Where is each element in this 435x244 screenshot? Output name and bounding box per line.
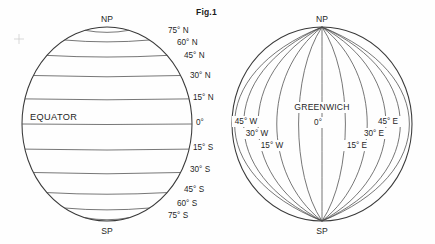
longitude-label--45: 45° W [235,117,258,126]
meridian-line-30 [322,27,367,221]
latitude-label-60: 60° N [177,38,198,47]
latitude-label-30: 30° N [190,71,211,80]
figure-canvas: Fig.1 NPSPEQUATOR75° N60° N45° N30° N15°… [0,0,435,244]
south-pole-label-left: SP [101,226,113,236]
globes-diagram: NPSPEQUATOR75° N60° N45° N30° N15° N0°15… [0,0,435,244]
latitude-label--15: 15° S [193,143,214,152]
latitude-label-15: 15° N [193,93,214,102]
north-pole-label-left: NP [101,14,113,24]
longitude-label-30: 30° E [364,129,385,138]
parallel-line-45 [47,55,167,57]
greenwich-label: GREENWICH [294,102,349,112]
longitude-label-0: 0° [314,118,322,127]
parallel-line--15 [25,149,189,150]
meridian-line-15 [322,27,345,221]
latitude-label--45: 45° S [184,185,205,194]
north-pole-label-right: NP [316,14,328,24]
latitude-label--60: 60° S [177,199,198,208]
latitude-label--75: 75° S [168,211,189,220]
registration-mark-icon [14,34,24,44]
equator-label: EQUATOR [30,112,77,122]
latitude-label-75: 75° N [168,26,189,35]
latitude-label--30: 30° S [190,165,211,174]
parallels-globe [22,27,192,221]
longitude-label--30: 30° W [246,129,269,138]
longitude-label-15: 15° E [347,141,368,150]
parallel-line-60 [65,40,150,42]
diagram-labels: NPSPEQUATOR75° N60° N45° N30° N15° N0°15… [30,14,402,236]
longitude-label-45: 45° E [378,117,399,126]
parallel-line-0 [22,124,192,125]
south-pole-label-right: SP [316,226,328,236]
latitude-lines [22,30,192,219]
parallel-line-75 [85,30,129,32]
latitude-label-45: 45° N [184,51,205,60]
parallel-line--30 [33,173,180,174]
parallel-line--60 [65,208,150,210]
parallel-line-30 [33,76,180,77]
parallel-line--45 [47,193,167,195]
longitude-label--15: 15° W [261,141,284,150]
parallel-line-15 [25,99,189,100]
latitude-label-0: 0° [196,118,204,127]
